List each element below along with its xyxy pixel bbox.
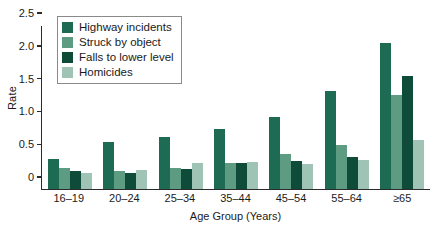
bar	[358, 160, 369, 189]
bar	[181, 169, 192, 189]
y-axis-tick-label: 0.5	[8, 138, 37, 150]
bar-group	[269, 26, 313, 189]
y-axis-tick-label: 1.5	[8, 73, 37, 85]
legend-swatch	[62, 37, 73, 48]
legend-swatch	[62, 52, 73, 63]
legend-item: Falls to lower level	[62, 50, 174, 65]
y-axis-tick: 1.5	[8, 73, 42, 85]
y-axis-tick: 2.5	[8, 7, 42, 19]
bar	[236, 163, 247, 189]
bar	[391, 95, 402, 189]
bar	[325, 91, 336, 189]
x-axis-tick-label: 20–24	[101, 192, 147, 204]
legend-label: Falls to lower level	[79, 52, 174, 64]
y-axis-tick-label: 1.0	[8, 105, 37, 117]
y-axis-tick: 1.0	[8, 105, 42, 117]
legend-item: Homicides	[62, 65, 174, 80]
bar-chart-figure: Rate 00.51.01.52.02.5 16–1920–2425–3435–…	[0, 0, 438, 235]
bar-group	[380, 26, 424, 189]
x-axis-tick-label: ≥65	[379, 192, 425, 204]
y-axis-tick-label: 0	[8, 171, 37, 183]
bar-group	[214, 26, 258, 189]
bar	[159, 137, 170, 189]
bar	[280, 154, 291, 189]
bar	[170, 168, 181, 189]
y-axis-tick: 2.0	[8, 40, 42, 52]
bar	[114, 171, 125, 189]
bar	[380, 43, 391, 189]
legend-label: Homicides	[79, 67, 133, 79]
bar	[81, 173, 92, 189]
legend-swatch	[62, 22, 73, 33]
bar	[402, 76, 413, 189]
x-axis-title: Age Group (Years)	[41, 210, 430, 222]
x-axis-tick-label: 45–54	[268, 192, 314, 204]
legend-label: Struck by object	[79, 37, 161, 49]
bar	[347, 157, 358, 189]
bar	[59, 168, 70, 189]
x-axis-tick-label: 35–44	[212, 192, 258, 204]
bar	[225, 163, 236, 189]
legend-label: Highway incidents	[79, 22, 172, 34]
bar	[269, 117, 280, 189]
y-axis-tick-label: 2.0	[8, 40, 37, 52]
x-axis-tick-label: 16–19	[46, 192, 92, 204]
bar	[302, 164, 313, 189]
y-axis-tick: 0.5	[8, 138, 42, 150]
y-axis-tick-label: 2.5	[8, 7, 37, 19]
legend-swatch	[62, 67, 73, 78]
bar	[192, 163, 203, 189]
y-axis-tick-mark	[37, 12, 42, 13]
bar	[247, 162, 258, 189]
bar	[48, 159, 59, 189]
legend-item: Highway incidents	[62, 20, 174, 35]
bar-group	[325, 26, 369, 189]
bar	[125, 173, 136, 189]
bar	[136, 170, 147, 189]
x-axis-ticks: 16–1920–2425–3435–4445–5455–64≥65	[41, 192, 430, 204]
bar	[336, 145, 347, 189]
bar	[70, 171, 81, 189]
bar	[413, 140, 424, 189]
x-axis-tick-label: 55–64	[324, 192, 370, 204]
bar	[103, 142, 114, 189]
bar	[291, 161, 302, 189]
legend-item: Struck by object	[62, 35, 174, 50]
chart-legend: Highway incidentsStruck by objectFalls t…	[57, 16, 182, 84]
x-axis-tick-label: 25–34	[157, 192, 203, 204]
y-axis-tick: 0	[8, 171, 42, 183]
bar	[214, 129, 225, 189]
